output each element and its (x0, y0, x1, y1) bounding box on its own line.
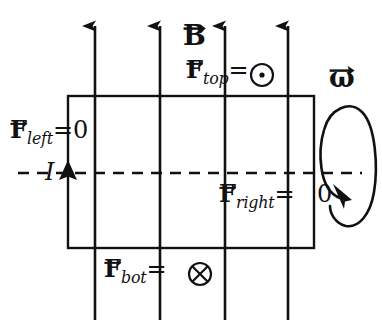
force-subscript-right: right (236, 193, 274, 212)
force-label-f-top: F top= (186, 58, 249, 87)
force-label-f-right: F right= (219, 182, 294, 211)
force-subscript-top: top (203, 69, 228, 88)
out-of-page-symbol-icon (251, 64, 273, 86)
force-label-f-left: F left=0 (10, 118, 88, 147)
into-page-symbol-icon (189, 263, 211, 285)
force-value-left: 0 (73, 116, 88, 144)
field-label-B: B (183, 22, 206, 49)
physics-diagram-canvas: B ω F top= F (0, 0, 382, 322)
equals-sign: = (274, 180, 294, 208)
angular-velocity-label-omega: ω (329, 64, 355, 91)
force-subscript-left: left (27, 129, 53, 148)
force-label-f-bot: F bot= (104, 257, 167, 286)
rotation-direction-ellipse-icon (321, 106, 376, 226)
equals-sign: = (228, 56, 248, 84)
current-label-I: I (45, 160, 54, 184)
equals-sign: = (146, 255, 166, 283)
force-value-right: 0 (317, 182, 332, 206)
equals-sign: = (53, 116, 73, 144)
force-subscript-bot: bot (121, 268, 146, 287)
